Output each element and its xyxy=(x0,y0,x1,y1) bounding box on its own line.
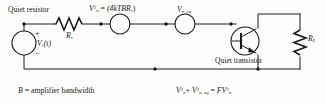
label-vn-eq: Vn, eq xyxy=(177,6,191,15)
transistor-q1-symbol xyxy=(231,27,259,55)
label-resistor-rs: Rs xyxy=(66,32,73,41)
rl-sub: L xyxy=(313,38,316,43)
source-minus-sign: − xyxy=(35,50,40,58)
eq-bw-text: amplifier bandwidth xyxy=(31,86,94,95)
label-quiet-transistor: Quiet transistor xyxy=(215,57,262,65)
eq-nf-t2sub: n, eq xyxy=(199,90,208,95)
eq-nf-rsub: n xyxy=(229,90,231,95)
eq-nf-plus: + xyxy=(186,86,190,95)
eq-thermal-equals: = xyxy=(101,4,105,13)
eq-thermal-sub: n xyxy=(96,8,98,13)
schematic-sheet: Quiet resistor V2n = (4kTBRs) Vn, eq + −… xyxy=(0,0,326,105)
label-resistor-rl: RL xyxy=(308,35,315,44)
equation-noise-figure: V2n+ V2n, eq = FV2n xyxy=(176,87,231,96)
vs-arg: (t) xyxy=(44,39,51,48)
source-vn-symbol xyxy=(110,14,130,34)
source-vs-symbol xyxy=(12,31,36,55)
eq-thermal-rhs: (4kTBR xyxy=(107,4,131,13)
eq-nf-equals: = xyxy=(211,86,215,95)
label-source-vs: Vs(t) xyxy=(37,40,51,49)
source-plus-sign: + xyxy=(35,30,40,38)
source-vn-eq-symbol xyxy=(175,14,195,34)
eq-thermal-paren: ) xyxy=(133,4,136,13)
eq-bw-equals: = xyxy=(25,86,29,95)
wire-right-branch xyxy=(258,14,300,69)
equation-thermal-noise: V2n = (4kTBRs) xyxy=(89,5,135,14)
eq-bw-symbol: B xyxy=(18,86,23,95)
equation-bandwidth: B = amplifier bandwidth xyxy=(18,87,95,95)
rs-sub: s xyxy=(71,35,73,40)
resistor-rl-symbol xyxy=(294,30,306,55)
resistor-rs-symbol xyxy=(56,18,82,30)
vneq-sub: n, eq xyxy=(182,9,191,14)
label-quiet-resistor: Quiet resistor xyxy=(8,6,49,14)
